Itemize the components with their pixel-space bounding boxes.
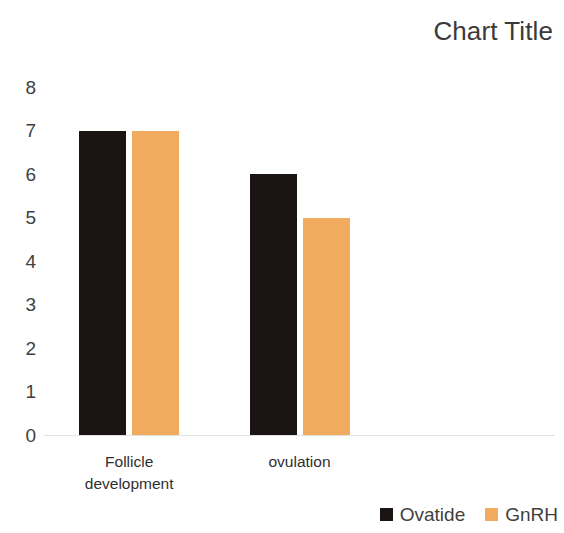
y-axis-tick-label: 8 (0, 78, 36, 97)
y-axis-tick-label: 1 (0, 382, 36, 401)
category-axis-label-line: development (44, 473, 214, 495)
legend-swatch-icon (380, 508, 393, 521)
y-axis-tick-label: 6 (0, 165, 36, 184)
category-axis-label-line: Follicle (44, 451, 214, 473)
legend-label: GnRH (505, 505, 558, 524)
bar (132, 131, 179, 436)
category-axis-label: Follicledevelopment (44, 451, 214, 495)
legend-label: Ovatide (400, 505, 465, 524)
y-axis-tick-label: 3 (0, 295, 36, 314)
bar (79, 131, 126, 436)
y-axis-tick-label: 7 (0, 121, 36, 140)
legend-item[interactable]: Ovatide (380, 505, 465, 524)
bar (303, 218, 350, 436)
category-axis-label: ovulation (214, 451, 384, 473)
legend-item[interactable]: GnRH (485, 505, 558, 524)
bar-chart: Chart Title 876543210 Follicledevelopmen… (0, 0, 564, 533)
y-axis-tick-label: 0 (0, 426, 36, 445)
chart-title: Chart Title (153, 14, 553, 48)
y-axis-tick-label: 5 (0, 208, 36, 227)
category-axis-label-line: ovulation (214, 451, 384, 473)
plot-area-bars (44, 87, 555, 435)
chart-legend: OvatideGnRH (380, 505, 558, 524)
category-axis-line (44, 435, 555, 436)
legend-swatch-icon (485, 508, 498, 521)
y-axis-tick-label: 4 (0, 252, 36, 271)
y-axis-tick-label: 2 (0, 339, 36, 358)
bar (250, 174, 297, 435)
